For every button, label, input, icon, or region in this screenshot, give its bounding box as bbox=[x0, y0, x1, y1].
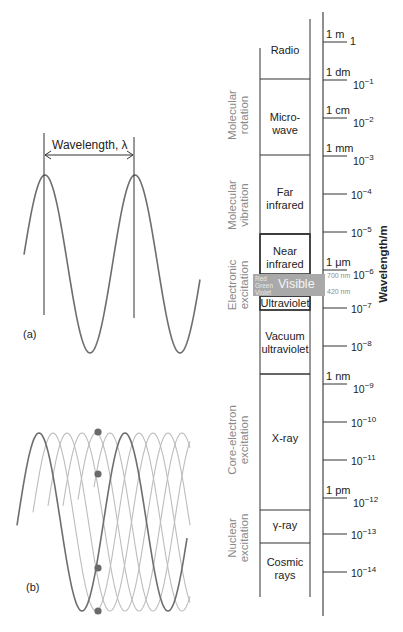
tick-power-label: 10−1 bbox=[353, 77, 374, 91]
tick-power-label: 10−2 bbox=[353, 115, 374, 129]
figure-artwork bbox=[0, 0, 403, 632]
upper-visible-mark: 700 nm bbox=[327, 272, 350, 279]
phase-shifted-wave bbox=[48, 433, 190, 611]
region-label-gamma-ray: γ-ray bbox=[260, 519, 310, 532]
panel-b-tag: (b) bbox=[26, 581, 39, 593]
tick-unit-label: 1 μm bbox=[326, 256, 351, 268]
process-label: Core-electronexcitation bbox=[226, 395, 250, 485]
phase-dot bbox=[94, 607, 101, 614]
region-label-radio: Radio bbox=[260, 44, 310, 57]
phase-shifted-wave bbox=[78, 433, 190, 611]
wavelength-label: Wavelength, λ bbox=[52, 138, 128, 152]
color-violet: Violet bbox=[255, 289, 273, 296]
phase-dot bbox=[94, 564, 101, 571]
tick-power-label: 10−14 bbox=[351, 565, 376, 579]
region-label-vacuum-uv: Vacuumultraviolet bbox=[260, 330, 310, 356]
process-label: Nuclearexcitation bbox=[226, 493, 250, 583]
color-red: Red bbox=[255, 275, 273, 282]
region-label-ultraviolet: Ultraviolet bbox=[260, 297, 310, 310]
visible-band: Red Green Violet Visible bbox=[253, 274, 325, 296]
tick-power-label: 10−12 bbox=[353, 495, 378, 509]
region-label-cosmic-rays: Cosmicrays bbox=[260, 556, 310, 582]
sine-wave-a bbox=[24, 175, 200, 353]
tick-unit-label: 1 nm bbox=[326, 370, 350, 382]
color-green: Green bbox=[255, 282, 273, 289]
tick-power-label: 10−9 bbox=[353, 381, 374, 395]
tick-power-label: 10−11 bbox=[351, 453, 376, 467]
region-label-microwave: Micro-wave bbox=[260, 111, 310, 137]
tick-power-label: 10−13 bbox=[351, 527, 376, 541]
phase-dot bbox=[94, 470, 101, 477]
tick-power-label: 10−3 bbox=[353, 153, 374, 167]
axis-title: Wavelength/m bbox=[377, 224, 389, 304]
region-label-near-ir: Nearinfrared bbox=[260, 245, 310, 271]
tick-power-label: 10−10 bbox=[351, 415, 376, 429]
lower-visible-mark: 420 nm bbox=[327, 288, 350, 295]
electromagnetic-spectrum-figure: Wavelength, λ (a) (b) RadioMicro-waveFar… bbox=[0, 0, 403, 632]
tick-power-label: 1 bbox=[350, 35, 356, 47]
process-label: Molecularvibration bbox=[226, 160, 250, 250]
panel-a-tag: (a) bbox=[23, 328, 36, 340]
visible-color-names: Red Green Violet bbox=[255, 275, 273, 296]
process-label: Molecularrotation bbox=[226, 70, 250, 160]
tick-unit-label: 1 m bbox=[326, 28, 344, 40]
tick-power-label: 10−7 bbox=[351, 301, 372, 315]
process-label: Electronicexcitation bbox=[226, 240, 250, 330]
visible-label: Visible bbox=[278, 277, 315, 291]
tick-unit-label: 1 dm bbox=[326, 66, 350, 78]
tick-power-label: 10−6 bbox=[353, 267, 374, 281]
tick-unit-label: 1 cm bbox=[326, 104, 350, 116]
phase-dot bbox=[94, 428, 101, 435]
tick-unit-label: 1 pm bbox=[326, 484, 350, 496]
tick-power-label: 10−8 bbox=[351, 339, 372, 353]
region-label-far-ir: Farinfrared bbox=[260, 186, 310, 212]
tick-power-label: 10−5 bbox=[351, 225, 372, 239]
region-label-x-ray: X-ray bbox=[260, 432, 310, 445]
tick-unit-label: 1 mm bbox=[326, 142, 354, 154]
tick-power-label: 10−4 bbox=[351, 187, 372, 201]
